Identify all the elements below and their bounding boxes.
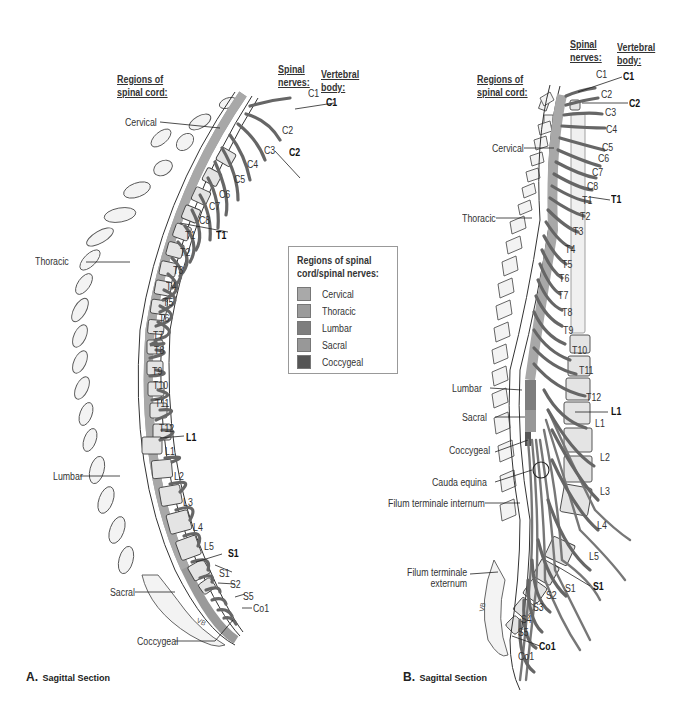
swatch-lumbar [297,321,311,335]
nerve-label-co1: Co1 [253,603,269,614]
panel-b-caption: B. Sagittal Section [403,667,487,685]
nerve-label-c1-b: C1 [596,69,607,80]
nerve-label-t7-b: T7 [558,290,568,301]
swatch-coccygeal [297,355,311,369]
nerve-label-s1-b: S1 [565,583,576,594]
nerve-label-s2: S2 [230,579,241,590]
panel-b-header-nerves: Spinal nerves: [570,38,602,64]
region-label-cauda-equina: Cauda equina [432,477,487,488]
panel-b-header-vertebral: Vertebral body: [617,41,655,67]
vertebral-label-c1-b: C1 [623,71,634,82]
nerve-label-s1: S1 [219,568,230,579]
region-label-lumbar: Lumbar [53,471,83,482]
nerve-label-t6: T6 [159,313,169,324]
region-label-cervical: Cervical [125,117,157,128]
legend-item-lumbar: Lumbar [297,321,356,335]
nerve-label-c7: C7 [209,201,220,212]
nerve-label-c8: C8 [199,215,210,226]
nerve-label-l5-b: L5 [589,551,599,562]
nerve-label-co1-b: Co1 [518,651,534,662]
nerve-label-s4-b: S4 [521,614,532,625]
panel-a-caption: A. Sagittal Section [26,667,110,685]
nerve-label-t8: T8 [154,345,164,356]
vertebral-label-c1: C1 [326,97,337,108]
nerve-label-l4-b: L4 [597,520,607,531]
nerve-label-c6-b: C6 [598,153,609,164]
region-label-sacral-b: Sacral [462,412,487,423]
nerve-label-t5-b: T5 [562,259,572,270]
nerve-label-l4: L4 [193,522,203,533]
legend-item-thoracic: Thoracic [297,304,360,318]
nerve-label-l5: L5 [204,541,214,552]
nerve-label-s5-b: S5 [518,627,529,638]
nerve-label-t8-b: T8 [562,307,572,318]
vertebral-label-c2-b: C2 [629,98,640,109]
nerve-label-t4-b: T4 [565,244,575,255]
vertebral-label-s1-b: S1 [593,581,604,592]
nerve-label-l2: L2 [174,471,184,482]
region-label-coccygeal: Coccygeal [137,636,178,647]
panel-a-header-regions: Regions of spinal cord: [117,73,168,99]
nerve-label-c6: C6 [219,189,230,200]
nerve-label-t12-b: T12 [586,392,601,403]
panel-b-header-regions: Regions of spinal cord: [477,73,528,99]
swatch-cervical [297,287,311,301]
nerve-label-s5: S5 [243,591,254,602]
legend-title: Regions of spinal cord/spinal nerves: [297,254,379,280]
nerve-label-c5: C5 [234,174,245,185]
nerve-label-c4: C4 [247,159,258,170]
vertebral-label-t1: T1 [216,230,226,241]
nerve-label-t3: T3 [173,265,183,276]
nerve-label-c4-b: C4 [606,124,617,135]
nerve-label-t9: T9 [152,366,162,377]
swatch-sacral [297,338,311,352]
nerve-label-t12: T12 [159,423,174,434]
legend: Regions of spinal cord/spinal nerves: Ce… [288,246,398,374]
nerve-label-l3-b: L3 [600,486,610,497]
nerve-label-l3: L3 [183,497,193,508]
nerve-label-t6-b: T6 [559,273,569,284]
nerve-label-t11: T11 [155,398,170,409]
panel-a-header-vertebral: Vertebral body: [321,68,359,94]
region-label-coccygeal-b: Coccygeal [449,445,490,456]
legend-item-coccygeal: Coccygeal [297,355,369,369]
vertebral-label-l1: L1 [186,432,196,443]
region-label-lumbar-b: Lumbar [452,383,482,394]
nerve-label-c3-b: C3 [605,107,616,118]
nerve-label-t10-b: T10 [572,345,587,356]
nerve-label-t2-b: T2 [580,211,590,222]
vertebral-label-s1: S1 [228,548,239,559]
nerve-label-c2: C2 [282,125,293,136]
nerve-label-s3-b: S3 [533,602,544,613]
nerve-label-s2-b: S2 [546,590,557,601]
nerve-label-t2: T2 [180,247,190,258]
nerve-label-c8-b: C8 [587,181,598,192]
panel-a-header-nerves: Spinal nerves: [278,63,310,89]
nerve-label-l2-b: L2 [600,452,610,463]
region-label-sacral: Sacral [110,587,135,598]
region-label-thoracic: Thoracic [35,256,69,267]
nerve-label-l1-b: L1 [595,418,605,429]
vertebral-label-c2: C2 [289,147,300,158]
region-label-filum-internum: Filum terminale internum [388,498,485,509]
nerve-label-t10: T10 [153,380,168,391]
nerve-label-l1: L1 [165,446,175,457]
nerve-label-t11-b: T11 [579,365,594,376]
region-label-filum-externum: Filum terminale externum [407,567,467,589]
nerve-label-c2-b: C2 [601,89,612,100]
legend-item-sacral: Sacral [297,338,350,352]
vertebral-label-l1-b: L1 [611,406,621,417]
nerve-label-c5-b: C5 [602,142,613,153]
vertebral-label-co1-b: Co1 [539,641,556,652]
nerve-label-t1: T1 [185,230,195,241]
nerve-label-t5: T5 [163,297,173,308]
nerve-label-t3-b: T3 [573,226,583,237]
region-label-cervical-b: Cervical [492,143,524,154]
nerve-label-t1-b: T1 [582,195,592,206]
nerve-label-t4: T4 [166,281,176,292]
legend-item-cervical: Cervical [297,287,358,301]
nerve-label-t9-b: T9 [563,325,573,336]
nerve-label-c3: C3 [264,145,275,156]
nerve-label-c1: C1 [308,88,319,99]
nerve-label-t7: T7 [153,330,163,341]
